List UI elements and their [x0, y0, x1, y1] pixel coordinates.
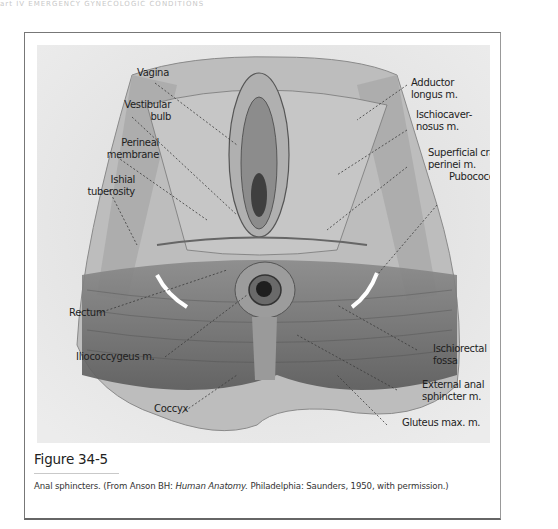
label-ischiocavernosus-line1: Ischiocaver- [416, 109, 472, 121]
label-ischiorectal-fossa-line2: fossa [433, 355, 487, 367]
label-adductor-longus-line2: longus m. [411, 89, 458, 101]
label-superficial-transverse-perinei: Superficial cransverse perinei m. [428, 147, 490, 171]
label-ishial-tuberosity: Ishial tuberosity [73, 174, 135, 198]
caption-suffix: Philadelphia: Saunders, 1950, with permi… [248, 481, 449, 491]
label-vestibular-bulb-line2: bulb [111, 111, 171, 123]
label-ischiorectal-fossa: Ischiorectal fossa [433, 343, 487, 367]
label-superficial-transverse-line2: perinei m. [428, 159, 490, 171]
label-vestibular-bulb-line1: Vestibular [111, 99, 171, 111]
label-adductor-longus-line1: Adductor [411, 77, 458, 89]
label-external-anal-sphincter: External anal sphincter m. [422, 379, 484, 403]
label-pubococcygeus: Pubococcygeus m. [449, 171, 490, 183]
caption-divider [34, 473, 119, 474]
figure-box: Vagina Vestibular bulb Perineal membrane… [24, 32, 501, 520]
label-superficial-transverse-line1: Superficial cransverse [428, 147, 490, 159]
anatomical-illustration: Vagina Vestibular bulb Perineal membrane… [37, 45, 490, 443]
label-ishial-tuberosity-line1: Ishial [73, 174, 135, 186]
label-external-anal-sphincter-line2: sphincter m. [422, 391, 484, 403]
label-external-anal-sphincter-line1: External anal [422, 379, 484, 391]
label-perineal-membrane-line2: membrane [99, 149, 159, 161]
label-ischiocavernosus-line2: nosus m. [416, 121, 472, 133]
label-vestibular-bulb: Vestibular bulb [111, 99, 171, 123]
label-ischiorectal-fossa-line1: Ischiorectal [433, 343, 487, 355]
label-perineal-membrane-line1: Perineal [99, 137, 159, 149]
figure-caption: Anal sphincters. (From Anson BH: Human A… [34, 481, 448, 491]
label-ischiocavernosus: Ischiocaver- nosus m. [416, 109, 472, 133]
label-adductor-longus: Adductor longus m. [411, 77, 458, 101]
label-perineal-membrane: Perineal membrane [99, 137, 159, 161]
label-iliococcygeus: Iliococcygeus m. [76, 351, 155, 363]
label-rectum: Rectum [69, 307, 105, 319]
label-gluteus-max: Gluteus max. m. [402, 417, 480, 429]
caption-prefix: Anal sphincters. (From Anson BH: [34, 481, 175, 491]
running-header: art IV EMERGENCY GYNECOLOGIC CONDITIONS [0, 0, 300, 10]
label-vagina: Vagina [137, 67, 169, 79]
figure-title: Figure 34-5 [34, 451, 108, 467]
label-coccyx: Coccyx [154, 403, 188, 415]
label-ishial-tuberosity-line2: tuberosity [73, 186, 135, 198]
caption-book-title: Human Anatomy. [175, 481, 247, 491]
